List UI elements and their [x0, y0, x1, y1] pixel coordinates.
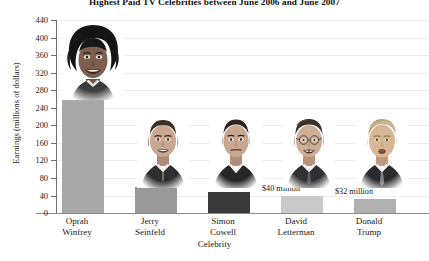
y-tick-mark [51, 38, 56, 39]
y-tick-label: 320 [2, 68, 48, 77]
y-tick-label: 160 [2, 138, 48, 147]
gridline [56, 20, 429, 21]
bar-jerry-seinfeld [135, 187, 177, 213]
y-tick-mark [51, 196, 56, 197]
y-axis-line [56, 20, 57, 214]
y-tick-mark [51, 143, 56, 144]
y-tick-label: 360 [2, 51, 48, 60]
x-category-label-donald-trump: Donald Trump [323, 216, 415, 237]
y-tick-mark [51, 160, 56, 161]
simon-cowell-portrait [210, 114, 262, 188]
y-tick-mark [51, 55, 56, 56]
bar-chart: Highest Paid TV Celebrities between June… [0, 0, 429, 261]
bar-david-letterman [281, 196, 323, 214]
y-tick-mark [51, 90, 56, 91]
y-tick-label: 80 [2, 173, 48, 182]
x-axis-title: Celebrity [0, 239, 429, 249]
y-tick-mark [51, 125, 56, 126]
jerry-seinfeld-portrait [137, 114, 189, 188]
bar-simon-cowell [208, 192, 250, 213]
category-line-2: Trump [323, 227, 415, 238]
oprah-winfrey-portrait [62, 22, 124, 100]
bar-donald-trump [354, 199, 396, 213]
y-tick-label: 40 [2, 191, 48, 200]
y-tick-mark [51, 20, 56, 21]
category-line-1: Donald [323, 216, 415, 227]
y-tick-label: 120 [2, 156, 48, 165]
x-axis-line [36, 213, 429, 214]
y-tick-mark [51, 108, 56, 109]
y-tick-label: 400 [2, 33, 48, 42]
y-tick-label: 280 [2, 86, 48, 95]
david-letterman-portrait [283, 114, 335, 188]
y-tick-mark [51, 178, 56, 179]
bar-oprah-winfrey [62, 99, 104, 213]
y-tick-mark [51, 73, 56, 74]
y-tick-label: 440 [2, 16, 48, 25]
y-tick-label: 240 [2, 103, 48, 112]
value-label-donald-trump: $32 million [314, 187, 394, 196]
donald-trump-portrait [356, 114, 408, 188]
y-tick-label: 200 [2, 121, 48, 130]
chart-title: Highest Paid TV Celebrities between June… [0, 0, 429, 7]
gridline [56, 108, 429, 109]
